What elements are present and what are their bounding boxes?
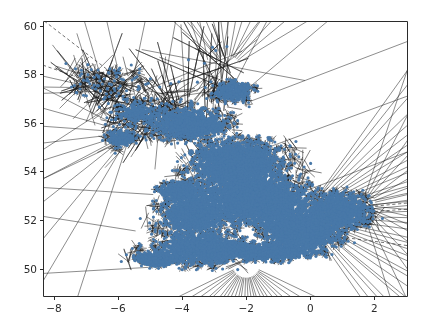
x-tick-label: 0 <box>295 303 325 314</box>
x-tick-label: −2 <box>231 303 261 314</box>
y-tick-label: 52 <box>9 215 37 226</box>
y-tick-label: 56 <box>9 118 37 129</box>
y-tick-label: 50 <box>9 264 37 275</box>
x-tick-label: −6 <box>103 303 133 314</box>
x-tick-label: −8 <box>39 303 69 314</box>
y-tick-label: 58 <box>9 69 37 80</box>
y-tick-label: 54 <box>9 166 37 177</box>
matplotlib-figure: 505254565860 −8−6−4−202 <box>0 0 427 334</box>
x-tick-label: −4 <box>167 303 197 314</box>
x-tick-label: 2 <box>359 303 389 314</box>
voronoi-plot-canvas <box>0 0 427 334</box>
y-tick-label: 60 <box>9 21 37 32</box>
